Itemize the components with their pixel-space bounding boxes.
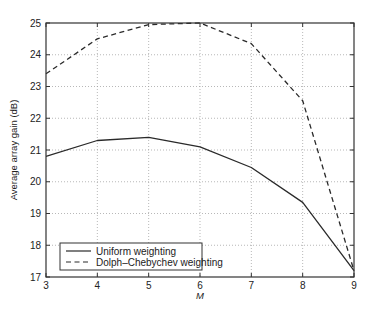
x-tick-label: 4 [95, 280, 101, 291]
y-tick-label: 21 [30, 145, 42, 156]
y-tick-label: 18 [30, 240, 42, 251]
x-tick-label: 9 [351, 280, 357, 291]
y-tick-label: 17 [30, 272, 42, 283]
x-tick-label: 8 [300, 280, 306, 291]
y-tick-label: 20 [30, 176, 42, 187]
line-chart: 3456789 171819202122232425 M Average arr… [0, 0, 376, 312]
legend-label: Dolph–Chebychev weighting [96, 257, 223, 268]
x-tick-label: 5 [146, 280, 152, 291]
legend-label: Uniform weighting [96, 246, 176, 257]
x-axis-label: M [196, 290, 204, 301]
y-tick-label: 22 [30, 113, 42, 124]
y-tick-label: 23 [30, 81, 42, 92]
y-axis-label: Average array gain (dB) [8, 100, 19, 201]
grid-lines [46, 23, 354, 277]
x-tick-label: 3 [43, 280, 49, 291]
x-tick-label: 7 [249, 280, 255, 291]
y-tick-label: 25 [30, 18, 42, 29]
legend: Uniform weightingDolph–Chebychev weighti… [60, 243, 223, 270]
y-tick-label: 24 [30, 49, 42, 60]
y-tick-labels: 171819202122232425 [30, 18, 42, 283]
y-tick-label: 19 [30, 208, 42, 219]
